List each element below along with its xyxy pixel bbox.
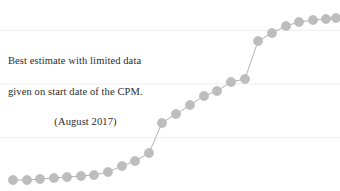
data-point-marker bbox=[130, 156, 139, 165]
data-point-marker bbox=[103, 167, 112, 176]
data-point-marker bbox=[22, 175, 31, 184]
data-point-marker bbox=[212, 86, 221, 95]
data-point-marker bbox=[8, 175, 17, 184]
data-point-marker bbox=[321, 14, 330, 23]
data-point-marker bbox=[62, 172, 71, 181]
data-point-marker bbox=[267, 28, 276, 37]
gridlines bbox=[0, 31, 340, 138]
data-point-marker bbox=[89, 170, 98, 179]
data-point-marker bbox=[308, 15, 317, 24]
data-point-marker bbox=[144, 148, 153, 157]
series-polyline bbox=[13, 18, 336, 180]
data-point-marker bbox=[331, 13, 340, 22]
data-point-marker bbox=[226, 77, 235, 86]
data-point-marker bbox=[76, 171, 85, 180]
data-point-marker bbox=[281, 21, 290, 30]
data-point-marker bbox=[35, 174, 44, 183]
chart-figure: Best estimate with limited data given on… bbox=[0, 0, 340, 191]
data-point-marker bbox=[185, 100, 194, 109]
data-point-marker bbox=[171, 109, 180, 118]
data-point-marker bbox=[117, 161, 126, 170]
data-point-marker bbox=[49, 173, 58, 182]
series-markers bbox=[8, 13, 340, 184]
data-point-marker bbox=[199, 91, 208, 100]
data-point-marker bbox=[253, 36, 262, 45]
data-point-marker bbox=[294, 17, 303, 26]
series-line bbox=[13, 18, 336, 180]
line-chart-plot bbox=[0, 0, 340, 191]
data-point-marker bbox=[240, 74, 249, 83]
data-point-marker bbox=[157, 118, 166, 127]
